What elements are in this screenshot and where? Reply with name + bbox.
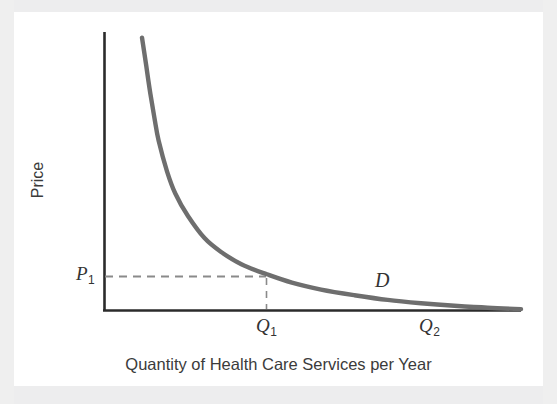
demand-curve-plot [0,0,557,404]
axis-label-q1-subscript: 1 [270,325,277,339]
axis-label-q1-symbol: Q [256,315,270,336]
demand-curve [142,38,521,310]
axis-label-p1-subscript: 1 [88,273,95,287]
y-axis-title: Price [6,170,66,190]
axis-label-p1-symbol: P [76,263,88,284]
axis-label-q1: Q1 [256,316,277,338]
axis-label-q2: Q2 [419,316,440,338]
axis-label-q2-subscript: 2 [433,325,440,339]
y-axis-title-text: Price [30,150,46,210]
figure-root: Price Quantity of Health Care Services p… [0,0,557,404]
axis-label-p1: P1 [76,264,95,286]
x-axis-title: Quantity of Health Care Services per Yea… [0,356,557,373]
curve-label-d: D [375,270,389,290]
axis-label-q2-symbol: Q [419,315,433,336]
